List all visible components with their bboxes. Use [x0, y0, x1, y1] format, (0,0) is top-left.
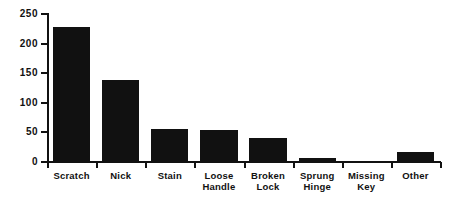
bar	[151, 129, 188, 162]
x-tick	[342, 162, 344, 168]
x-tick-label: MissingKey	[342, 170, 391, 192]
bar	[102, 80, 139, 162]
y-tick-label: 200	[8, 39, 38, 49]
bar-slot	[293, 14, 342, 162]
x-tick	[194, 162, 196, 168]
x-tick-label-line: Missing	[342, 170, 391, 181]
x-tick-label-line: Broken	[244, 170, 293, 181]
x-tick	[47, 162, 49, 168]
x-tick	[391, 162, 393, 168]
bar-slot	[145, 14, 194, 162]
x-tick-label-line: Sprung	[293, 170, 342, 181]
x-tick	[293, 162, 295, 168]
x-tick-label: SprungHinge	[293, 170, 342, 192]
y-tick-label: 50	[8, 127, 38, 137]
x-tick-label-line: Handle	[194, 181, 243, 192]
bar	[200, 130, 237, 162]
x-tick	[96, 162, 98, 168]
bar-chart: 050100150200250 ScratchNickStainLooseHan…	[0, 0, 457, 204]
x-tick-label-line: Stain	[145, 170, 194, 181]
bar	[53, 27, 90, 162]
x-tick	[145, 162, 147, 168]
x-tick-label: Scratch	[47, 170, 96, 181]
x-tick-label-line: Loose	[194, 170, 243, 181]
y-tick-label-wrap: 50	[0, 127, 38, 137]
bar-slot	[342, 14, 391, 162]
bar-slot	[194, 14, 243, 162]
y-tick-label-wrap: 100	[0, 98, 38, 108]
bar-slot	[96, 14, 145, 162]
x-tick-label-line: Scratch	[47, 170, 96, 181]
y-tick-label: 150	[8, 68, 38, 78]
bar	[397, 152, 434, 162]
x-tick	[440, 162, 442, 168]
y-tick-label-wrap: 250	[0, 9, 38, 19]
bar	[249, 138, 286, 162]
bar	[299, 158, 336, 162]
y-tick-label: 100	[8, 98, 38, 108]
bar-slot	[391, 14, 440, 162]
x-tick-label: Nick	[96, 170, 145, 181]
x-tick-label: Other	[391, 170, 440, 181]
x-tick-label: BrokenLock	[244, 170, 293, 192]
x-tick-label-line: Key	[342, 181, 391, 192]
x-tick	[244, 162, 246, 168]
x-tick-label-line: Nick	[96, 170, 145, 181]
x-tick-label: Stain	[145, 170, 194, 181]
y-tick-label-wrap: 0	[0, 157, 38, 167]
y-tick-label-wrap: 200	[0, 39, 38, 49]
plot-area	[47, 14, 440, 162]
y-tick-label-wrap: 150	[0, 68, 38, 78]
x-tick-label-line: Other	[391, 170, 440, 181]
y-tick-label: 250	[8, 9, 38, 19]
y-tick-label: 0	[8, 157, 38, 167]
x-tick-label-line: Hinge	[293, 181, 342, 192]
bar	[348, 161, 385, 163]
bar-slot	[244, 14, 293, 162]
x-tick-label-line: Lock	[244, 181, 293, 192]
bar-slot	[47, 14, 96, 162]
x-tick-label: LooseHandle	[194, 170, 243, 192]
